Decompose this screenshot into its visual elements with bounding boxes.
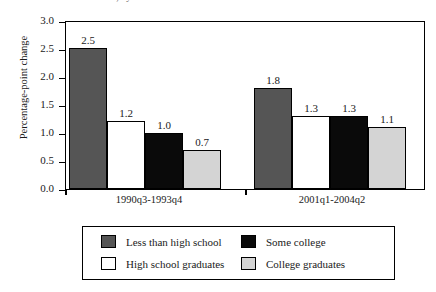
x-tick-label-1990q3-1993q4: 1990q3-1993q4 bbox=[74, 194, 224, 205]
bar-lths-2001[interactable]: 1.8 bbox=[254, 88, 292, 189]
bar-value: 0.7 bbox=[195, 136, 209, 148]
bar-value: 1.8 bbox=[266, 74, 280, 86]
bar-cg-2001[interactable]: 1.1 bbox=[368, 127, 406, 189]
chart-legend: Less than high school Some college High … bbox=[82, 226, 395, 280]
legend-label: Some college bbox=[266, 236, 326, 248]
x-tick-mark-left bbox=[65, 190, 67, 195]
legend-swatch-sc-icon bbox=[241, 235, 256, 248]
y-tick-label: 1.0 bbox=[40, 126, 54, 138]
bar-hsg-1990[interactable]: 1.2 bbox=[107, 121, 145, 189]
bar-value: 1.3 bbox=[304, 102, 318, 114]
legend-swatch-cg-icon bbox=[241, 257, 256, 270]
legend-swatch-lths-icon bbox=[101, 235, 116, 248]
y-axis-title: Percentage-point change bbox=[18, 3, 29, 173]
legend-label: College graduates bbox=[266, 258, 345, 270]
legend-item-less-than-high-school[interactable]: Less than high school bbox=[101, 235, 222, 248]
bar-value: 1.2 bbox=[119, 107, 133, 119]
bar-value: 1.0 bbox=[157, 119, 171, 131]
y-tick-label: 2.0 bbox=[40, 70, 54, 82]
y-tick-label: 0.5 bbox=[40, 154, 54, 166]
legend-swatch-hsg-icon bbox=[101, 257, 116, 270]
bar-group-1990q3-1993q4: 2.5 1.2 1.0 0.7 bbox=[69, 20, 221, 189]
bar-value: 1.1 bbox=[380, 113, 394, 125]
bar-lths-1990[interactable]: 2.5 bbox=[69, 48, 107, 189]
bar-sc-1990[interactable]: 1.0 bbox=[145, 133, 183, 189]
y-tick-label: 1.5 bbox=[40, 98, 54, 110]
x-tick-mark-mid bbox=[245, 190, 247, 195]
legend-item-college-graduates[interactable]: College graduates bbox=[241, 257, 345, 270]
y-tick-label: 2.5 bbox=[40, 42, 54, 54]
chart-title: ...the most recent recessions, by educat… bbox=[4, 0, 424, 3]
y-tick-label: 3.0 bbox=[40, 14, 54, 26]
legend-label: High school graduates bbox=[126, 258, 224, 270]
bar-sc-2001[interactable]: 1.3 bbox=[330, 116, 368, 189]
legend-item-some-college[interactable]: Some college bbox=[241, 235, 326, 248]
y-tick-label: 0.0 bbox=[40, 182, 54, 194]
bar-group-2001q1-2004q2: 1.8 1.3 1.3 1.1 bbox=[254, 20, 406, 189]
x-tick-label-2001q1-2004q2: 2001q1-2004q2 bbox=[256, 194, 408, 205]
plot-area: 2.5 1.2 1.0 0.7 1.8 1.3 1.3 1.1 bbox=[65, 21, 425, 190]
bar-cg-1990[interactable]: 0.7 bbox=[183, 150, 221, 189]
legend-item-high-school-graduates[interactable]: High school graduates bbox=[101, 257, 224, 270]
bar-hsg-2001[interactable]: 1.3 bbox=[292, 116, 330, 189]
bar-value: 2.5 bbox=[81, 34, 95, 46]
bar-value: 1.3 bbox=[342, 102, 356, 114]
legend-label: Less than high school bbox=[126, 236, 222, 248]
